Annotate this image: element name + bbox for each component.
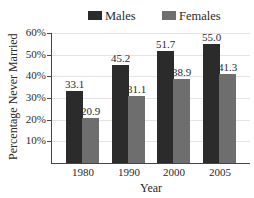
legend-label-males: Males (105, 10, 136, 22)
legend-swatch-females (162, 11, 176, 20)
bar-females-2000 (173, 79, 190, 163)
x-axis-title: Year (140, 181, 162, 196)
y-tick-label: 40% (16, 70, 46, 81)
value-label: 31.1 (122, 84, 152, 95)
y-tick-label: 50% (16, 49, 46, 60)
value-label: 41.3 (213, 62, 243, 73)
x-tick-label: 1980 (63, 167, 103, 178)
x-axis-line (51, 163, 250, 164)
y-axis-line (51, 33, 52, 164)
bar-females-1990 (128, 96, 145, 163)
y-tick-label: 30% (16, 92, 46, 103)
x-tick-label: 1990 (109, 167, 149, 178)
x-tick-label: 2005 (200, 167, 240, 178)
value-label: 20.9 (76, 106, 106, 117)
bar-females-1980 (82, 118, 99, 163)
bar-females-2005 (219, 74, 236, 163)
legend-swatch-males (88, 11, 102, 20)
y-tick-label: 10% (16, 135, 46, 146)
bar-males-1980 (66, 91, 83, 163)
value-label: 33.1 (60, 79, 90, 90)
gridline (52, 55, 250, 56)
value-label: 51.7 (151, 39, 181, 50)
y-tick-label: 20% (16, 114, 46, 125)
x-tick-label: 2000 (154, 167, 194, 178)
bar-males-1990 (112, 65, 129, 163)
legend-label-females: Females (179, 10, 221, 22)
value-label: 55.0 (197, 32, 227, 43)
value-label: 45.2 (106, 53, 136, 64)
y-tick-label: 60% (16, 27, 46, 38)
value-label: 38.9 (167, 67, 197, 78)
